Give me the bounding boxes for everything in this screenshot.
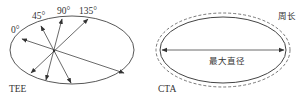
intersection-point	[53, 50, 55, 52]
tee-ellipse	[10, 16, 134, 84]
angle-label-135: 135°	[79, 6, 97, 16]
diagram-canvas: 0° 45° 90° 135° TEE 最大直径 周长 CTA	[0, 0, 306, 99]
diameter-45-line	[41, 26, 71, 83]
angle-label-45: 45°	[32, 11, 46, 21]
tee-label: TEE	[9, 84, 27, 94]
tee-panel: 0° 45° 90° 135° TEE	[9, 6, 134, 94]
angle-label-90: 90°	[57, 6, 71, 16]
max-diameter-label: 最大直径	[209, 56, 245, 66]
cta-panel: 最大直径 周长 CTA	[156, 11, 296, 94]
perimeter-label: 周长	[278, 11, 296, 21]
diameter-0-line	[22, 39, 124, 73]
cta-label: CTA	[158, 84, 176, 94]
angle-label-0: 0°	[11, 25, 20, 35]
diameter-90-line	[46, 19, 62, 80]
